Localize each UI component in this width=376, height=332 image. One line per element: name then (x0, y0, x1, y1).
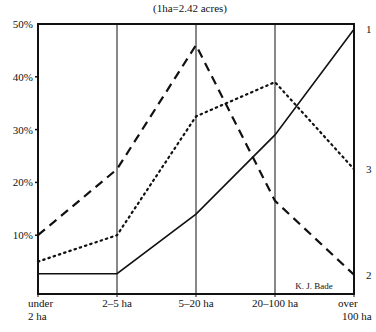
author-annotation: K. J. Bade (295, 281, 333, 291)
plot-frame (38, 24, 354, 294)
y-tick-label: 10% (13, 229, 33, 241)
line-chart: (1ha=2.42 acres) 10%20%30%40%50% under2 … (0, 0, 376, 332)
y-tick-label: 40% (13, 71, 33, 83)
x-axis: under2 ha2–5 ha5–20 ha20–100 haover100 h… (28, 294, 372, 322)
x-tick-label: 100 ha (342, 310, 372, 322)
x-tick-label: 20–100 ha (252, 297, 298, 309)
y-tick-label: 30% (13, 124, 33, 136)
y-tick-label: 20% (13, 176, 33, 188)
series-label-2: 2 (366, 269, 372, 281)
series-label-1: 1 (366, 23, 372, 35)
chart-title: (1ha=2.42 acres) (153, 2, 227, 15)
x-tick-label: 2–5 ha (102, 297, 132, 309)
y-tick-label: 50% (13, 18, 33, 30)
series-label-3: 3 (366, 163, 372, 175)
x-tick-label: over (338, 297, 358, 309)
x-tick-label: 2 ha (28, 310, 47, 322)
x-tick-label: under (28, 297, 53, 309)
series-labels: 123 (366, 23, 372, 281)
x-tick-label: 5–20 ha (178, 297, 213, 309)
y-axis: 10%20%30%40%50% (13, 18, 38, 241)
